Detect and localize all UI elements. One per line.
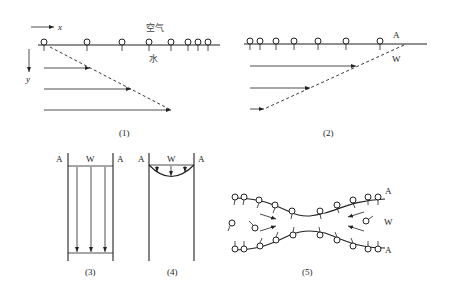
lower-interface <box>232 231 385 250</box>
air-label: A <box>393 30 400 40</box>
flow-arrow <box>348 226 364 231</box>
figure: x y 空气 水 (1) <box>0 0 451 297</box>
panel-5: A W A (5) <box>228 186 393 277</box>
panel-1: x y 空气 水 (1) <box>25 22 220 138</box>
water-label: 水 <box>149 53 158 64</box>
upper-interface <box>232 198 385 216</box>
panel-caption: (5) <box>302 267 313 277</box>
air-label-top: A <box>385 186 392 196</box>
panel-caption: (4) <box>167 267 178 277</box>
panel-caption: (3) <box>85 267 96 277</box>
flow-arrow <box>260 214 276 219</box>
velocity-envelope <box>264 45 404 109</box>
panel-caption: (1) <box>119 128 130 138</box>
air-label: 空气 <box>146 22 164 33</box>
x-axis-label: x <box>57 22 62 32</box>
water-label: W <box>384 217 393 227</box>
air-label-left: A <box>56 154 63 164</box>
free-molecules <box>228 216 373 231</box>
air-label-right: A <box>117 154 124 164</box>
upper-surfactant-molecules <box>232 194 381 219</box>
water-label: W <box>86 154 95 164</box>
panel-caption: (2) <box>323 128 334 138</box>
flow-arrow <box>348 212 364 217</box>
air-label-bottom: A <box>385 245 392 255</box>
air-label-left: A <box>138 154 145 164</box>
panel-3: A W A (3) <box>56 153 124 277</box>
panel-2: A W (2) <box>244 30 427 138</box>
panel-4: A W A (4) <box>138 153 205 277</box>
water-label: W <box>167 154 176 164</box>
water-label: W <box>392 54 401 64</box>
parabolic-profile <box>149 165 194 177</box>
y-axis-label: y <box>25 74 30 84</box>
air-label-right: A <box>198 154 205 164</box>
flow-arrow <box>260 226 276 231</box>
